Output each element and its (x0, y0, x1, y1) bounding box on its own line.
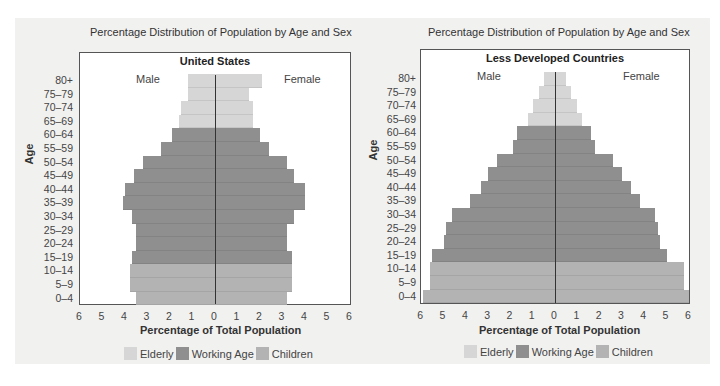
male-bar-4 (517, 126, 555, 140)
female-bar-15 (555, 276, 684, 290)
legend-label: Elderly (140, 348, 174, 360)
age-label: 40–44 (29, 182, 73, 196)
female-bar-12 (555, 235, 660, 249)
x-tick-label: 1 (182, 310, 202, 322)
legend-swatch (176, 347, 189, 360)
ldc-suptitle: Percentage Distribution of Population by… (428, 26, 690, 38)
female-bar-3 (215, 115, 253, 129)
age-label: 55–59 (29, 141, 73, 155)
age-label: 70–74 (372, 98, 416, 112)
age-label: 20–24 (372, 234, 416, 248)
male-bar-2 (533, 99, 555, 113)
us-suptitle: Percentage Distribution of Population by… (90, 26, 352, 38)
female-bar-4 (215, 128, 260, 142)
age-label: 70–74 (29, 100, 73, 114)
age-label: 50–54 (29, 155, 73, 169)
female-bar-16 (555, 290, 689, 304)
age-label: 5–9 (372, 275, 416, 289)
us-x-axis-title: Percentage of Total Population (140, 324, 301, 336)
female-bar-9 (215, 196, 305, 210)
us-legend: ElderlyWorking AgeChildren (124, 347, 315, 360)
x-tick-label: 6 (339, 310, 359, 322)
legend-swatch (464, 345, 477, 358)
age-label: 20–24 (29, 236, 73, 250)
age-label: 45–49 (29, 168, 73, 182)
age-label: 40–44 (372, 180, 416, 194)
female-bar-2 (215, 101, 253, 115)
x-tick-label: 4 (294, 310, 314, 322)
age-label: 15–19 (29, 250, 73, 264)
male-bar-6 (497, 154, 555, 168)
male-bar-11 (136, 224, 215, 238)
x-tick-label: 5 (317, 310, 337, 322)
female-bar-6 (215, 156, 287, 170)
us-chart-title: United States (80, 55, 350, 67)
female-bar-8 (555, 181, 631, 195)
x-tick-label: 4 (455, 309, 475, 321)
x-tick-label: 0 (204, 310, 224, 322)
age-label: 15–19 (372, 248, 416, 262)
ldc-male-label: Male (477, 70, 501, 82)
ldc-female-label: Female (623, 70, 660, 82)
x-tick-label: 6 (69, 310, 89, 322)
x-tick-label: 2 (249, 310, 269, 322)
male-bar-0 (544, 72, 555, 86)
age-label: 0–4 (372, 289, 416, 303)
male-bar-1 (188, 88, 215, 102)
age-label: 45–49 (372, 166, 416, 180)
age-label: 0–4 (29, 291, 73, 305)
female-bar-2 (555, 99, 577, 113)
us-female-label: Female (284, 73, 321, 85)
female-bar-5 (215, 142, 269, 156)
male-bar-2 (181, 101, 215, 115)
male-bar-11 (446, 222, 555, 236)
ldc-legend: ElderlyWorking AgeChildren (464, 345, 655, 358)
male-bar-8 (125, 183, 215, 197)
female-bar-12 (215, 237, 287, 251)
male-bar-13 (432, 249, 555, 263)
age-label: 75–79 (29, 87, 73, 101)
x-tick-label: 2 (499, 309, 519, 321)
x-tick-label: 3 (611, 309, 631, 321)
female-bar-7 (555, 167, 622, 181)
age-label: 35–39 (29, 195, 73, 209)
age-label: 30–34 (29, 209, 73, 223)
female-bar-9 (555, 194, 640, 208)
female-bar-14 (215, 264, 292, 278)
male-bar-9 (470, 194, 555, 208)
legend-item-elderly: Elderly (464, 345, 514, 358)
x-tick-label: 5 (433, 309, 453, 321)
male-bar-6 (143, 156, 215, 170)
x-tick-label: 1 (522, 309, 542, 321)
male-bar-8 (481, 181, 555, 195)
female-bar-0 (555, 72, 566, 86)
male-bar-7 (134, 169, 215, 183)
legend-item-children: Children (596, 345, 653, 358)
legend-item-working_age: Working Age (516, 345, 594, 358)
x-tick-label: 4 (114, 310, 134, 322)
female-bar-3 (555, 113, 582, 127)
male-bar-15 (130, 278, 216, 292)
age-label: 10–14 (372, 261, 416, 275)
female-bar-11 (555, 222, 658, 236)
age-label: 10–14 (29, 263, 73, 277)
female-bar-1 (215, 88, 249, 102)
male-bar-5 (513, 140, 555, 154)
ldc-x-axis-title: Percentage of Total Population (479, 324, 640, 336)
us-chart-panel: Percentage Distribution of Population by… (15, 18, 358, 364)
male-bar-16 (136, 292, 215, 306)
legend-item-elderly: Elderly (124, 347, 174, 360)
legend-swatch (516, 345, 529, 358)
age-label: 5–9 (29, 277, 73, 291)
age-label: 55–59 (372, 139, 416, 153)
age-label: 65–69 (29, 114, 73, 128)
female-bar-15 (215, 278, 292, 292)
male-bar-3 (528, 113, 555, 127)
female-bar-0 (215, 74, 262, 88)
female-bar-5 (555, 140, 595, 154)
male-bar-10 (452, 208, 555, 222)
us-plot-area: United States Male Female (79, 52, 351, 305)
age-label: 60–64 (29, 127, 73, 141)
ldc-plot-area: Less Developed Countries Male Female (420, 49, 690, 304)
age-label: 30–34 (372, 207, 416, 221)
